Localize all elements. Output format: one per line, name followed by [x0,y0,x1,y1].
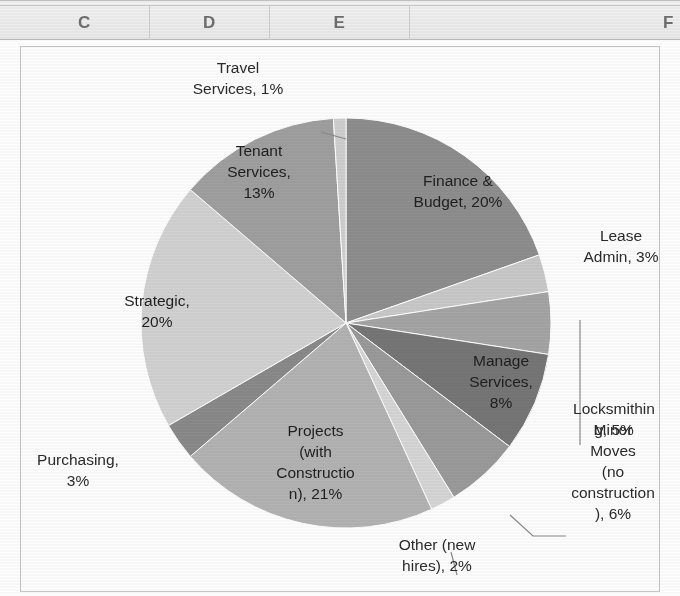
column-header-c[interactable]: C [20,6,150,40]
pie-label-finance-budget: Finance & Budget, 20% [392,170,524,212]
pie-label-other-new-hires: Other (new hires), 2% [371,534,503,576]
column-header-f[interactable]: F [570,6,680,40]
column-header-c-label: C [78,13,91,33]
column-header-d-label: D [203,13,216,33]
pie-label-lease-admin: Lease Admin, 3% [565,225,677,267]
spreadsheet-column-header: C D E F [0,0,680,40]
pie-label-tenant-services: Tenant Services, 13% [200,140,318,203]
pie-label-projects: Projects (with Constructio n), 21% [253,420,378,504]
pie-label-minor-moves: Minor Moves (no construction ), 6% [549,419,677,524]
column-header-e-label: E [334,13,346,33]
column-header-f-label: F [663,13,674,33]
pie-label-manage-services: Manage Services, 8% [446,350,556,413]
pie-label-strategic: Strategic, 20% [97,290,217,332]
pie-label-travel-services: Travel Services, 1% [173,57,303,99]
column-header-e[interactable]: E [270,6,410,40]
column-header-d[interactable]: D [150,6,270,40]
pie-label-purchasing: Purchasing, 3% [12,449,144,491]
